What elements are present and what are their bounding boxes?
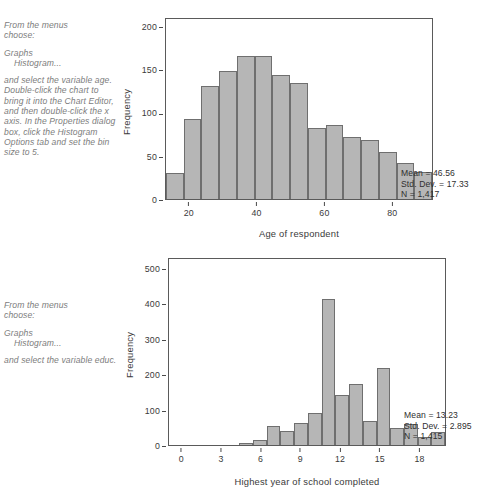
note-educ-menu2: Histogram... [4, 338, 120, 348]
bar [390, 428, 404, 445]
note-age-line2: choose: [4, 30, 35, 40]
bar [326, 125, 344, 199]
bar [228, 444, 240, 445]
x-tick-age-60: 60 [319, 202, 329, 218]
y-tick-age-100: 100 [142, 108, 163, 118]
stat-mean-educ: Mean = 13.23 [404, 410, 472, 421]
x-tick-educ-15: 15 [375, 448, 385, 464]
note-educ-intro: From the menus choose: [4, 300, 120, 321]
stat-stddev-educ: Std. Dev. = 2.895 [404, 421, 472, 432]
histogram-educ: Frequency 0100200300400500 0369121518 Hi… [126, 250, 490, 482]
bar [169, 444, 181, 445]
bar [308, 128, 326, 199]
y-tick-educ-200: 200 [145, 370, 166, 380]
y-axis-educ: 0100200300400500 [136, 258, 166, 446]
bar [204, 444, 216, 445]
y-tick-age-0: 0 [152, 195, 163, 205]
x-tick-educ-18: 18 [414, 448, 424, 464]
y-tick-educ-400: 400 [145, 299, 166, 309]
stat-n-educ: N = 1,415 [404, 431, 472, 442]
bar [239, 443, 253, 445]
x-tick-age-40: 40 [252, 202, 262, 218]
plot-area-age [165, 18, 433, 200]
x-tick-age-80: 80 [387, 202, 397, 218]
bar [361, 140, 379, 199]
bar [377, 368, 391, 445]
bar [237, 56, 255, 199]
note-educ-body: and select the variable educ. [4, 355, 120, 365]
bar [166, 173, 184, 199]
note-educ-menu1: Graphs [4, 328, 33, 338]
bar [216, 444, 228, 445]
bar [280, 431, 294, 445]
stats-annotation-educ: Mean = 13.23 Std. Dev. = 2.895 N = 1,415 [404, 410, 472, 442]
y-tick-age-200: 200 [142, 22, 163, 32]
stat-n-age: N = 1,417 [401, 189, 469, 200]
y-tick-educ-300: 300 [145, 335, 166, 345]
histogram-age: Frequency 050100150200 20406080 Age of r… [118, 10, 490, 240]
x-tick-age-20: 20 [184, 202, 194, 218]
x-tick-educ-0: 0 [179, 448, 184, 464]
note-educ-line1: From the menus [4, 300, 68, 310]
bar [294, 423, 308, 445]
y-tick-educ-100: 100 [145, 406, 166, 416]
x-tick-educ-9: 9 [298, 448, 303, 464]
bar [192, 444, 204, 445]
bar [201, 86, 219, 199]
x-axis-label-educ: Highest year of school completed [168, 476, 446, 487]
stats-annotation-age: Mean = 46.56 Std. Dev. = 17.33 N = 1,417 [401, 168, 469, 200]
note-age-body: and select the variable age. Double-clic… [4, 75, 120, 157]
y-axis-age: 050100150200 [133, 18, 163, 200]
note-age-intro: From the menus choose: [4, 20, 120, 41]
note-age-menu2: Histogram... [4, 58, 120, 68]
bar [322, 299, 336, 445]
y-axis-label-educ: Frequency [124, 332, 135, 378]
bar [272, 75, 290, 199]
bar-series-age [166, 19, 432, 199]
instruction-note-age: From the menus choose: Graphs Histogram.… [4, 20, 120, 158]
note-age-menupath: Graphs Histogram... [4, 48, 120, 69]
x-axis-label-age: Age of respondent [165, 228, 433, 239]
bar [255, 56, 273, 199]
stat-stddev-age: Std. Dev. = 17.33 [401, 179, 469, 190]
x-tick-educ-12: 12 [335, 448, 345, 464]
bar [343, 137, 361, 199]
y-tick-age-50: 50 [147, 152, 163, 162]
bar [290, 83, 308, 199]
note-age-line1: From the menus [4, 20, 68, 30]
y-axis-label-age: Frequency [121, 89, 132, 135]
bar [335, 395, 349, 445]
instruction-note-educ: From the menus choose: Graphs Histogram.… [4, 300, 120, 365]
bar [379, 152, 397, 199]
bar [253, 440, 267, 445]
x-tick-educ-6: 6 [258, 448, 263, 464]
y-tick-age-150: 150 [142, 65, 163, 75]
note-educ-line2: choose: [4, 310, 35, 320]
bar [349, 384, 363, 445]
bar [363, 421, 377, 445]
stat-mean-age: Mean = 46.56 [401, 168, 469, 179]
bar [308, 413, 322, 445]
y-tick-educ-500: 500 [145, 264, 166, 274]
x-tick-educ-3: 3 [218, 448, 223, 464]
note-educ-menupath: Graphs Histogram... [4, 328, 120, 349]
bar [267, 426, 281, 446]
x-axis-age: 20406080 [165, 202, 433, 218]
note-age-menu1: Graphs [4, 48, 33, 58]
y-tick-educ-0: 0 [155, 441, 166, 451]
bar [219, 71, 237, 199]
x-axis-educ: 0369121518 [168, 448, 446, 464]
bar [184, 119, 202, 199]
bar [181, 444, 193, 445]
